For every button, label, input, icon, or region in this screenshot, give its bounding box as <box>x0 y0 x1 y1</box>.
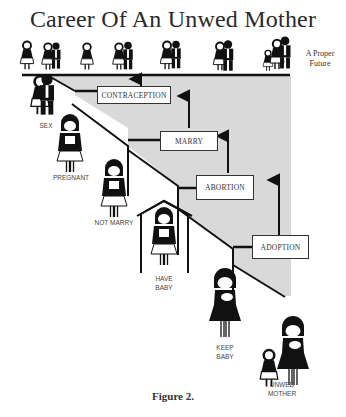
stage-have-baby-icon <box>151 207 177 265</box>
proper-future-label: A Proper Future <box>294 49 346 69</box>
stage-keep-baby-icon <box>209 268 241 337</box>
stage-label-not-marry: NOT MARRY <box>84 218 144 227</box>
marry-box: MARRY <box>160 131 218 151</box>
have-baby-line-2: BABY <box>144 283 184 292</box>
stage-not-marry-icon <box>101 159 127 217</box>
figure-caption: Figure 2. <box>0 390 346 402</box>
contraception-box: CONTRACEPTION <box>97 86 171 104</box>
stage-label-keep-baby: KEEP BABY <box>205 343 245 361</box>
stage-unwed-mother-icon <box>277 316 309 385</box>
have-baby-line-1: HAVE <box>144 274 184 283</box>
figure-girl-icon <box>20 42 33 70</box>
figure-young-woman-icon <box>81 43 94 69</box>
stage-label-have-baby: HAVE BABY <box>144 274 184 292</box>
stage-label-pregnant: PREGNANT <box>45 173 97 182</box>
keep-baby-line-2: BABY <box>205 352 245 361</box>
proper-future-line-1: A Proper <box>294 49 346 59</box>
shaded-region <box>47 75 291 296</box>
unwed-mother-line-1: UNWED <box>262 380 302 389</box>
stage-label-sex: SEX <box>26 121 66 130</box>
keep-baby-line-1: KEEP <box>205 343 245 352</box>
adoption-box: ADOPTION <box>252 235 309 259</box>
abortion-box: ABORTION <box>196 175 254 200</box>
proper-future-line-2: Future <box>294 59 346 69</box>
